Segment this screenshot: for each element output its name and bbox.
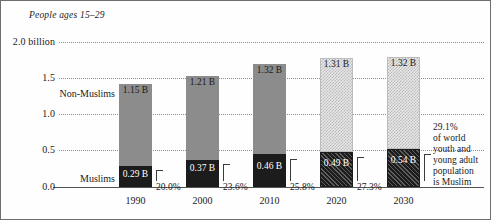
- share-label-2020: 27.3%: [357, 182, 382, 192]
- x-tick-label-2020: 2020: [312, 195, 361, 206]
- bar-non-muslims-2020: [320, 58, 353, 152]
- annotation-line-3: youth and: [433, 144, 471, 155]
- annotation-line-6: is Muslim: [433, 177, 471, 188]
- share-bracket-1990: [156, 170, 163, 181]
- share-bracket-2010: [290, 159, 297, 181]
- value-label-non-muslims-1990: 1.15 B: [117, 85, 154, 95]
- y-tick-label-2-0: 2.0 billion: [1, 36, 55, 47]
- bar-non-muslims-2030: [387, 57, 420, 149]
- x-tick-label-1990: 1990: [111, 195, 160, 206]
- share-bracket-2020: [357, 157, 364, 181]
- value-label-muslims-2020: 0.49 B: [318, 158, 355, 168]
- value-label-muslims-2000: 0.37 B: [184, 163, 221, 173]
- x-tick-label-2000: 2000: [178, 195, 227, 206]
- share-label-2010: 25.8%: [290, 182, 315, 192]
- value-label-non-muslims-2010: 1.32 B: [251, 65, 288, 75]
- value-label-non-muslims-2030: 1.32 B: [385, 58, 422, 68]
- value-label-muslims-2010: 0.46 B: [251, 161, 288, 171]
- y-tick-label-1-0: 1.0: [1, 108, 55, 119]
- chart-figure: People ages 15–29 2.0 billion 1.5 1.0 0.…: [0, 0, 491, 220]
- bar-non-muslims-1990: [119, 84, 152, 167]
- x-axis-line: [53, 187, 484, 188]
- bar-non-muslims-2010: [253, 64, 286, 154]
- bar-non-muslims-2000: [186, 76, 219, 160]
- share-bracket-2030: [424, 154, 431, 181]
- y-tick-label-0-5: 0.5: [1, 144, 55, 155]
- gridline-2-0: [59, 42, 484, 43]
- x-tick-label-2010: 2010: [245, 195, 294, 206]
- value-label-muslims-2030: 0.54 B: [385, 155, 422, 165]
- value-label-non-muslims-2020: 1.31 B: [318, 59, 355, 69]
- annotation-line-4: young adult: [433, 155, 478, 166]
- annotation-line-5: population: [433, 166, 474, 177]
- share-label-2000: 23.6%: [223, 182, 248, 192]
- x-tick-label-2030: 2030: [379, 195, 428, 206]
- y-tick-label-1-5: 1.5: [1, 72, 55, 83]
- chart-title: People ages 15–29: [29, 10, 105, 20]
- value-label-non-muslims-2000: 1.21 B: [184, 77, 221, 87]
- share-bracket-2000: [223, 164, 230, 181]
- share-label-1990: 20.0%: [156, 182, 181, 192]
- annotation-line-2: of world: [433, 133, 465, 144]
- series-label-non-muslims: Non-Muslims: [29, 88, 115, 99]
- annotation-line-1: 29.1%: [433, 122, 458, 133]
- value-label-muslims-1990: 0.29 B: [117, 169, 154, 179]
- series-label-muslims: Muslims: [29, 173, 115, 184]
